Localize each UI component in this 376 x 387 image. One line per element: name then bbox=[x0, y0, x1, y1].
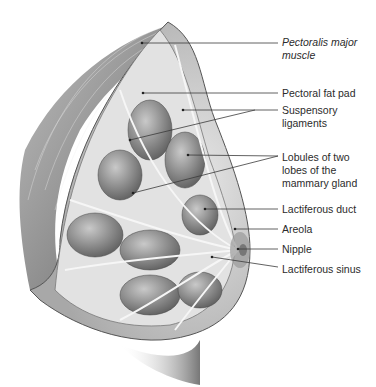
shadow bbox=[120, 340, 200, 385]
label-areola: Areola bbox=[282, 223, 312, 236]
label-lactiferous-sinus: Lactiferous sinus bbox=[282, 263, 361, 276]
label-pectoralis-major-muscle: Pectoralis major muscle bbox=[282, 36, 357, 62]
label-pectoral-fat-pad: Pectoral fat pad bbox=[282, 87, 356, 100]
label-nipple: Nipple bbox=[282, 243, 312, 256]
label-lactiferous-duct: Lactiferous duct bbox=[282, 203, 356, 216]
label-lobules: Lobules of two lobes of the mammary glan… bbox=[282, 151, 357, 190]
label-suspensory-ligaments: Suspensory ligaments bbox=[282, 104, 337, 130]
nipple bbox=[239, 244, 247, 256]
